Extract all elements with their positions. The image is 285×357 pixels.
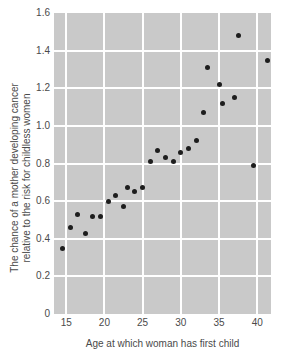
x-axis-title: Age at which woman has first child <box>54 338 271 350</box>
x-tick-label: 40 <box>242 317 272 329</box>
data-point <box>98 214 103 219</box>
data-point <box>236 33 241 38</box>
x-tick-label: 20 <box>89 317 119 329</box>
x-tick-label: 30 <box>166 317 196 329</box>
data-point <box>217 82 222 87</box>
y-axis-title: The chance of a mother developing cancer… <box>9 28 33 328</box>
data-point <box>251 163 256 168</box>
data-point <box>106 199 111 204</box>
x-tick-label: 25 <box>128 317 158 329</box>
data-point <box>220 101 225 106</box>
y-axis-title-line2: relative to the risk for childless women <box>21 28 33 328</box>
x-tick-label: 15 <box>51 317 81 329</box>
scatter-plot-figure: 15202530354000.20.40.60.81.01.21.41.6 Ag… <box>0 0 285 357</box>
data-point <box>75 212 80 217</box>
plot-area <box>54 13 271 314</box>
data-point <box>90 214 95 219</box>
gridline-horizontal <box>54 87 271 89</box>
data-point <box>83 231 88 236</box>
data-point <box>201 110 206 115</box>
data-point <box>132 189 137 194</box>
y-tick-label: 1.6 <box>0 7 50 19</box>
data-point <box>163 155 168 160</box>
data-point <box>113 193 118 198</box>
data-point <box>60 246 65 251</box>
x-tick-label: 35 <box>204 317 234 329</box>
gridline-horizontal <box>54 125 271 127</box>
data-point <box>68 225 73 230</box>
gridline-horizontal <box>54 200 271 202</box>
data-point <box>171 159 176 164</box>
data-point <box>125 185 130 190</box>
gridline-horizontal <box>54 238 271 240</box>
gridline-horizontal <box>54 163 271 165</box>
gridline-horizontal <box>54 275 271 277</box>
data-point <box>194 138 199 143</box>
data-point <box>186 146 191 151</box>
y-axis-title-line1: The chance of a mother developing cancer <box>9 28 21 328</box>
data-point <box>121 204 126 209</box>
data-point <box>265 58 270 63</box>
data-point <box>178 150 183 155</box>
data-point <box>205 65 210 70</box>
data-point <box>140 185 145 190</box>
data-point <box>232 95 237 100</box>
gridline-horizontal <box>54 50 271 52</box>
data-point <box>155 148 160 153</box>
data-point <box>148 159 153 164</box>
